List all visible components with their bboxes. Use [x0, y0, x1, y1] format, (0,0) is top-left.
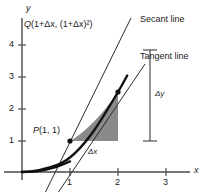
delta-x-label: Δx	[88, 148, 97, 156]
point-marker-q	[115, 89, 120, 94]
y-tick-label-1: 1	[9, 136, 14, 145]
point-marker-p	[67, 138, 72, 143]
point-label-p: P(1, 1)	[33, 126, 60, 135]
point-label-q-coords: (1+Δx, (1+Δx)²)	[31, 19, 93, 29]
tangent-line	[59, 64, 146, 192]
x-axis-label: x	[194, 166, 199, 175]
delta-y-label: Δy	[155, 90, 164, 98]
figure-canvas	[0, 0, 212, 196]
secant-line-label: Secant line	[140, 15, 185, 24]
point-label-q: Q(1+Δx, (1+Δx)²)	[24, 20, 93, 29]
x-tick-label-1: 1	[67, 178, 72, 187]
y-tick-label-2: 2	[9, 104, 14, 113]
y-tick-label-4: 4	[9, 40, 14, 49]
calculus-secant-tangent-figure: y x 1 2 3 4 1 2 3 Q(1+Δx, (1+Δx)²) P(1, …	[0, 0, 212, 196]
x-tick-label-3: 3	[163, 178, 168, 187]
point-label-q-name: Q	[24, 19, 31, 29]
point-label-p-coords: (1, 1)	[39, 125, 60, 135]
tangent-line-label: Tangent line	[140, 52, 189, 61]
y-axis-label: y	[26, 4, 31, 13]
y-tick-label-3: 3	[9, 72, 14, 81]
x-tick-label-2: 2	[115, 178, 120, 187]
shaded-region	[70, 92, 118, 141]
